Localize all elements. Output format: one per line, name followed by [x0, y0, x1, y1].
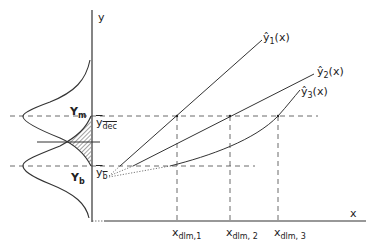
curve-3-line [170, 90, 300, 166]
x-dlm-1-label: xdlm,1 [172, 227, 201, 241]
curve-2-line [133, 74, 314, 166]
diagram-canvas [0, 0, 378, 248]
curve-1-label: ŷ1(x) [263, 32, 290, 46]
curve-1-dotted [109, 166, 120, 176]
overlap-hatched-region [67, 116, 91, 166]
curve-2-label: ŷ2(x) [317, 66, 344, 80]
x-dlm-2-label: xdlm, 2 [226, 227, 258, 241]
intersection-dot-2 [229, 115, 231, 117]
curve-1-line [120, 40, 262, 166]
intersection-dot-3 [277, 115, 279, 117]
level-dec-label: ydec [96, 117, 117, 131]
curve-3-label: ŷ3(x) [301, 86, 328, 100]
x-axis-label: x [350, 208, 357, 219]
level-b-label: yb [96, 167, 108, 181]
distribution-upper-label: Ym [70, 106, 86, 120]
distribution-lower-curve [23, 116, 91, 218]
intersection-dot-1 [176, 115, 178, 117]
y-axis-label: y [98, 12, 105, 23]
distribution-lower-label: Yb [71, 172, 85, 186]
x-dlm-3-label: xdlm, 3 [274, 227, 306, 241]
